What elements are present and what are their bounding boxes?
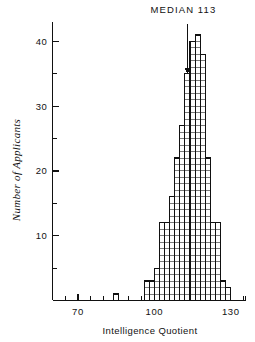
x-tick-label: 70 [72, 306, 84, 317]
histogram-figure: 10203040 70100130 MEDIAN 113 Intelligenc… [0, 0, 255, 342]
histogram-bar [195, 35, 200, 301]
histogram-bar [221, 281, 226, 300]
x-axis-title: Intelligence Quotient [102, 325, 197, 336]
iq-histogram-chart: 10203040 70100130 MEDIAN 113 Intelligenc… [0, 0, 255, 342]
histogram-bar [180, 126, 185, 301]
y-tick-label: 40 [36, 36, 48, 47]
y-tick-label: 10 [36, 230, 48, 241]
x-tick-label: 100 [146, 306, 164, 317]
y-axis-title: Number of Applicants [10, 119, 22, 222]
histogram-bar [185, 74, 190, 301]
y-tick-label: 20 [36, 165, 48, 176]
histogram-bar [114, 294, 119, 300]
histogram-bar [144, 281, 149, 300]
histogram-bar [149, 281, 154, 300]
median-label: MEDIAN 113 [151, 4, 217, 15]
y-tick-label: 30 [36, 101, 48, 112]
histogram-bar [154, 268, 159, 300]
x-tick-label: 130 [222, 306, 240, 317]
